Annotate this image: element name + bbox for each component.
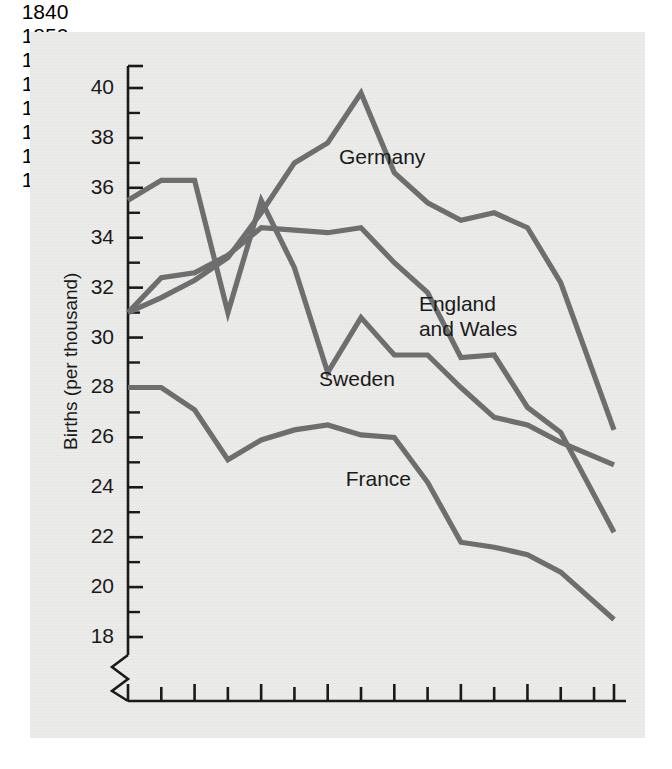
y-tick-label: 34	[66, 225, 114, 249]
y-tick-label: 40	[66, 75, 114, 99]
y-tick-label: 20	[66, 574, 114, 598]
series-label-line1: England	[419, 291, 517, 316]
y-tick-label: 38	[66, 125, 114, 149]
y-tick-label: 24	[66, 474, 114, 498]
series-label-france: France	[346, 466, 411, 491]
axis-break-zigzag	[112, 655, 128, 701]
series-label-germany: Germany	[339, 144, 425, 169]
y-tick-label: 18	[66, 624, 114, 648]
y-axis-title: Births (per thousand)	[60, 273, 82, 450]
y-tick-label: 22	[66, 524, 114, 548]
y-tick-label: 36	[66, 175, 114, 199]
figure: 1820222426283032343638401840185018601870…	[0, 0, 672, 769]
data-lines-group	[128, 93, 614, 620]
series-label-line2: and Wales	[419, 316, 517, 341]
series-label-england-and-wales: Englandand Wales	[419, 291, 517, 341]
series-label-sweden: Sweden	[319, 366, 395, 391]
series-line-france	[128, 388, 614, 620]
